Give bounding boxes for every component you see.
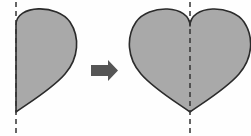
left-half-heart-group [16,9,77,112]
figure-canvas [0,0,251,136]
transform-arrow [91,60,118,81]
right-arrow-icon [91,60,118,81]
mirror-symmetry-figure [0,0,251,136]
half-heart-shape [16,9,77,112]
